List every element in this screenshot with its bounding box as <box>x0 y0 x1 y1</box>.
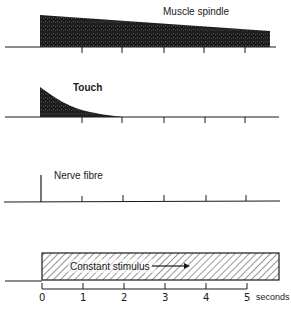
axis-ticks <box>42 283 247 289</box>
tick-label-2: 2 <box>121 292 127 303</box>
stimulus-panel: Constant stimulus <box>5 253 279 281</box>
tick-marks <box>82 117 245 123</box>
tick-label-3: 3 <box>162 292 168 303</box>
tick-marks <box>82 47 245 53</box>
tick-label-1: 1 <box>80 292 86 303</box>
tick-label-5: 5 <box>244 292 250 303</box>
touch-panel: Touch <box>5 82 279 123</box>
time-axis: 0 1 2 3 4 5 seconds <box>39 283 290 303</box>
baseline <box>4 201 280 202</box>
adaptation-diagram: Muscle spindle Touch Nerve fibre <box>0 0 291 311</box>
muscle-spindle-panel: Muscle spindle <box>5 6 276 53</box>
tick-label-4: 4 <box>203 292 209 303</box>
nerve-fibre-label: Nerve fibre <box>54 170 103 181</box>
tick-label-0: 0 <box>39 292 45 303</box>
touch-label: Touch <box>73 82 102 93</box>
axis-unit-label: seconds <box>256 292 290 302</box>
stimulus-label: Constant stimulus <box>70 261 149 272</box>
nerve-fibre-panel: Nerve fibre <box>4 170 280 202</box>
muscle-spindle-response <box>40 15 270 47</box>
muscle-spindle-label: Muscle spindle <box>163 6 230 17</box>
